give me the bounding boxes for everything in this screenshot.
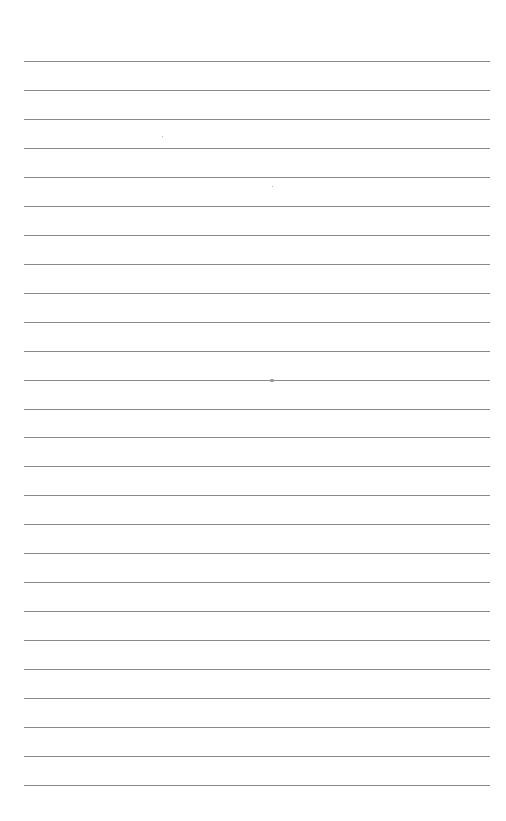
ruled-line [24,351,490,352]
ruled-line [24,669,490,670]
ruled-line [24,727,490,728]
ruled-line [24,698,490,699]
paper-speck [272,186,273,187]
ruled-line [24,640,490,641]
ruled-line [24,61,490,62]
ruled-line [24,264,490,265]
ruled-line [24,495,490,496]
ruled-line [24,611,490,612]
ruled-line [24,148,490,149]
ruled-line [24,380,490,381]
ruled-line [24,582,490,583]
ruled-line [24,119,490,120]
ruled-line [24,206,490,207]
lined-paper-page [0,0,506,821]
ruled-line [24,437,490,438]
ruled-line [24,322,490,323]
ruled-line [24,293,490,294]
ruled-line [24,524,490,525]
ruled-line [24,409,490,410]
paper-speck [162,136,163,137]
paper-mark [270,379,274,382]
ruled-line [24,177,490,178]
ruled-line [24,785,490,786]
ruled-line [24,466,490,467]
ruled-line [24,553,490,554]
ruled-line [24,756,490,757]
ruled-line [24,90,490,91]
ruled-line [24,235,490,236]
